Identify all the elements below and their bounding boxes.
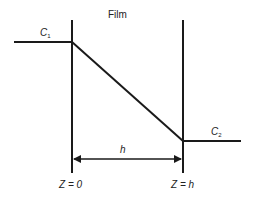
right-boundary-label: Z = h — [171, 180, 194, 190]
thickness-label: h — [120, 145, 126, 155]
c2-label: C2 — [211, 127, 222, 138]
c2-subscript: 2 — [218, 132, 221, 138]
concentration-profile-line — [72, 42, 183, 141]
left-boundary-label: Z = 0 — [59, 180, 82, 190]
film-title: Film — [108, 10, 127, 20]
c1-subscript: 1 — [47, 33, 50, 39]
diagram-canvas — [0, 0, 254, 198]
c1-label: C1 — [40, 28, 51, 39]
